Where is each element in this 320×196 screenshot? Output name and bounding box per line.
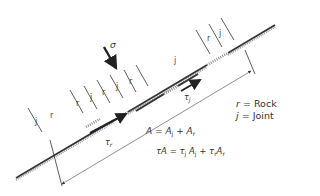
tau-rock-label: τr bbox=[105, 138, 113, 148]
joint-boundaries bbox=[28, 18, 234, 132]
area-equation: A = Aj + Ar bbox=[146, 126, 195, 137]
sigma-label: σ bbox=[110, 40, 116, 50]
segment-label: j bbox=[89, 93, 92, 102]
legend-joint: j = Joint bbox=[236, 110, 277, 122]
segment-label: j bbox=[173, 56, 176, 65]
tau-joint-label: τj bbox=[184, 93, 191, 104]
dimension-line bbox=[50, 50, 255, 186]
segment-label: j bbox=[115, 82, 118, 91]
segment-label: r bbox=[207, 34, 211, 43]
upper-joint-segment bbox=[136, 94, 164, 111]
force-equation: τA = τj Aj + τrAr bbox=[156, 146, 225, 157]
legend-rock: r = Rock bbox=[236, 98, 277, 110]
shear-arrow-rock bbox=[90, 114, 126, 133]
segment-label: r bbox=[50, 111, 54, 120]
legend: r = Rock j = Joint bbox=[236, 98, 277, 122]
segment-label: j bbox=[34, 117, 37, 126]
segment-label: j bbox=[218, 29, 221, 38]
normal-stress-arrow bbox=[104, 47, 116, 68]
